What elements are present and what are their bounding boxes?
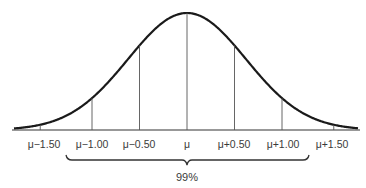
tick-labels: μ−1.50 μ−1.00 μ−0.50 μ μ+0.50 μ+1.00 μ+1… [28,138,349,150]
tick-label-minus-1-00: μ−1.00 [76,138,109,150]
tick-label-mu: μ [184,138,190,150]
coverage-brace [66,155,309,165]
bell-curve [14,13,358,128]
normal-distribution-figure: μ−1.50 μ−1.00 μ−0.50 μ μ+0.50 μ+1.00 μ+1… [0,0,366,188]
tick-label-minus-1-50: μ−1.50 [28,138,61,150]
tick-label-plus-1-00: μ+1.00 [267,138,300,150]
tick-label-plus-0-50: μ+0.50 [218,138,251,150]
vertical-markers [92,13,282,130]
distribution-svg: μ−1.50 μ−1.00 μ−0.50 μ μ+0.50 μ+1.00 μ+1… [0,0,366,188]
tick-label-plus-1-50: μ+1.50 [316,138,349,150]
coverage-percent-label: 99% [176,171,198,183]
tick-label-minus-0-50: μ−0.50 [123,138,156,150]
